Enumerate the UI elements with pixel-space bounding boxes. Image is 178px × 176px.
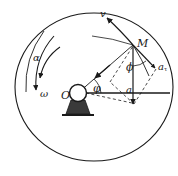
physics-diagram-rotating-disk: M v aτ ϕ a φ O α ω bbox=[0, 0, 178, 176]
label-center-o: O bbox=[61, 90, 70, 101]
center-hub bbox=[70, 85, 87, 102]
parallelogram-side-right bbox=[134, 69, 156, 104]
diagram-canvas bbox=[0, 0, 178, 176]
label-point-m: M bbox=[137, 38, 148, 49]
normal-acceleration-vector bbox=[95, 65, 110, 78]
label-angle-phi: ϕ bbox=[126, 62, 134, 73]
label-angular-velocity: ω bbox=[40, 89, 48, 99]
label-rotation-angle: φ bbox=[93, 83, 101, 94]
label-velocity: v bbox=[100, 9, 106, 19]
label-tangential-acceleration: aτ bbox=[158, 62, 167, 73]
label-tangential-acceleration-subscript: τ bbox=[164, 66, 167, 72]
label-angular-acceleration: α bbox=[33, 53, 40, 63]
label-total-acceleration: a bbox=[126, 85, 132, 95]
